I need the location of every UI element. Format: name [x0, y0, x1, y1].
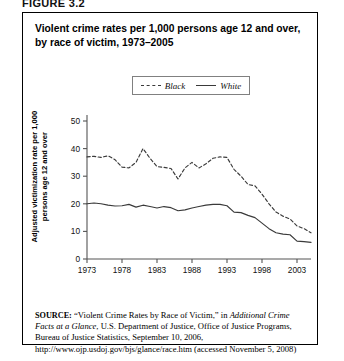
svg-text:1973: 1973 [78, 265, 97, 275]
figure-panel: Violent crime rates per 1,000 persons ag… [22, 12, 318, 345]
plot-area: Adjusted victimization rate per 1,000 pe… [23, 97, 319, 297]
svg-text:1993: 1993 [218, 265, 237, 275]
dashed-line-icon [141, 85, 161, 86]
legend-item-white: White [196, 81, 241, 91]
svg-text:2003: 2003 [288, 265, 307, 275]
solid-line-icon [196, 85, 216, 86]
source-prefix: SOURCE: [35, 311, 72, 320]
line-chart: 01020304050 1973197819831988199319982003 [23, 97, 319, 297]
svg-text:0: 0 [75, 254, 80, 264]
source-note: SOURCE: “Violent Crime Rates by Race of … [35, 310, 307, 355]
figure-label: FIGURE 3.2 [22, 0, 85, 9]
data-series [87, 149, 311, 243]
legend-label-black: Black [165, 81, 186, 91]
svg-text:1998: 1998 [253, 265, 272, 275]
svg-text:1978: 1978 [113, 265, 132, 275]
svg-text:50: 50 [71, 116, 81, 126]
legend-item-black: Black [141, 81, 186, 91]
y-axis-label: Adjusted victimization rate per 1,000 pe… [30, 102, 49, 252]
svg-text:1988: 1988 [183, 265, 202, 275]
svg-text:40: 40 [71, 144, 81, 154]
svg-text:10: 10 [71, 226, 81, 236]
chart-title: Violent crime rates per 1,000 persons ag… [35, 22, 307, 49]
svg-text:20: 20 [71, 199, 81, 209]
svg-text:1983: 1983 [148, 265, 167, 275]
source-text-1: “Violent Crime Rates by Race of Victim,”… [72, 310, 230, 320]
x-axis: 1973197819831988199319982003 [78, 259, 311, 275]
legend-label-white: White [220, 81, 241, 91]
svg-text:30: 30 [71, 171, 81, 181]
chart-legend: Black White [132, 76, 250, 95]
y-axis: 01020304050 [71, 115, 87, 264]
